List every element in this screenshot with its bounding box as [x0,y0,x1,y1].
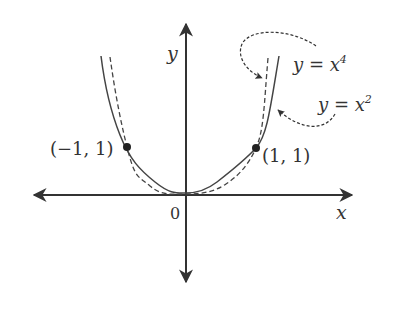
curve-x-fourth [110,57,268,194]
point-neg1-1 [123,143,131,151]
curve-label-x-squared-exp: 2 [365,93,372,106]
parabola-diagram: y x 0 (−1, 1) (1, 1) y = x4 y = x2 [0,0,401,311]
curve-label-x-squared: y = x2 [318,96,372,114]
curve-label-x-fourth-base: y = x [293,54,340,75]
curve-label-x-fourth-exp: 4 [340,53,347,66]
curve-label-x-squared-base: y = x [318,94,365,115]
x-axis-label: x [336,203,347,222]
curve-x-squared [101,56,279,193]
curve-label-x-fourth: y = x4 [293,56,347,74]
y-axis-label: y [167,44,178,63]
point-1-1 [252,144,260,152]
origin-label: 0 [170,206,180,222]
point-label-1-1: (1, 1) [262,147,310,165]
point-label-neg1-1: (−1, 1) [50,140,113,158]
